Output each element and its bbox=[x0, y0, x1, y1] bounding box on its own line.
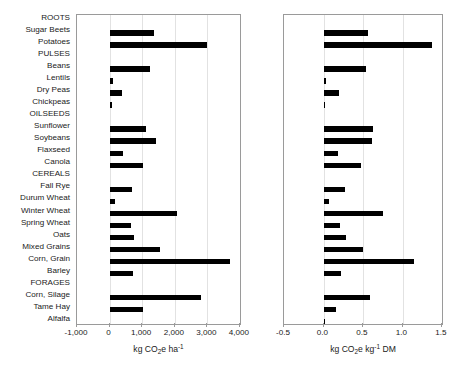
bar-row bbox=[77, 63, 240, 75]
bar-row bbox=[284, 184, 442, 196]
bar bbox=[110, 78, 113, 83]
bar-row bbox=[77, 15, 240, 27]
x-tick-label: 1,000 bbox=[131, 327, 151, 339]
x-tick-mark bbox=[402, 323, 403, 327]
bar-row bbox=[284, 123, 442, 135]
bar-row bbox=[284, 27, 442, 39]
bar bbox=[110, 151, 124, 156]
x-axis-ticks-right: -0.50.00.51.01.5 bbox=[283, 327, 443, 339]
x-tick-label: 3,000 bbox=[196, 327, 216, 339]
category-label: Spring Wheat bbox=[0, 217, 74, 229]
bar-row bbox=[77, 292, 240, 304]
category-label: Mixed Grains bbox=[0, 241, 74, 253]
bar bbox=[110, 259, 231, 264]
bar-row bbox=[77, 111, 240, 123]
bar-row bbox=[77, 220, 240, 232]
bar bbox=[110, 235, 134, 240]
bar-row bbox=[77, 268, 240, 280]
x-tick-label: 0.0 bbox=[317, 327, 328, 339]
bar bbox=[324, 319, 325, 324]
bar bbox=[324, 126, 374, 131]
bar-row bbox=[77, 196, 240, 208]
bar-row bbox=[284, 39, 442, 51]
x-tick-mark bbox=[441, 323, 442, 327]
plot-area-right bbox=[284, 15, 442, 324]
bar bbox=[110, 223, 131, 228]
bar-row bbox=[284, 292, 442, 304]
category-label: Winter Wheat bbox=[0, 205, 74, 217]
figure-container: ROOTSSugar BeetsPotatoesPULSESBeansLenti… bbox=[0, 0, 452, 375]
chart-panel-left bbox=[76, 14, 241, 325]
bar-row bbox=[77, 280, 240, 292]
x-tick-mark bbox=[362, 323, 363, 327]
bar-row bbox=[284, 63, 442, 75]
category-label: Fall Rye bbox=[0, 180, 74, 192]
bar-row bbox=[77, 256, 240, 268]
bar bbox=[324, 30, 368, 35]
bar-row bbox=[284, 15, 442, 27]
bar-row bbox=[284, 99, 442, 111]
bar-row bbox=[284, 208, 442, 220]
category-label: Corn, Silage bbox=[0, 289, 74, 301]
bar-row bbox=[284, 256, 442, 268]
bar bbox=[110, 42, 208, 47]
bar-row bbox=[77, 172, 240, 184]
x-axis-ticks-left: -1,00001,0002,0003,0004,000 bbox=[76, 327, 241, 339]
x-axis-title-left: kg CO2e ha-1 bbox=[76, 344, 241, 354]
bar-row bbox=[284, 75, 442, 87]
x-tick-label: -1,000 bbox=[65, 327, 88, 339]
bar bbox=[110, 30, 154, 35]
bar-row bbox=[284, 244, 442, 256]
bar-row bbox=[77, 159, 240, 171]
bar bbox=[324, 235, 346, 240]
bar-row bbox=[77, 75, 240, 87]
bar-row bbox=[284, 268, 442, 280]
bar-row bbox=[284, 172, 442, 184]
bar-row bbox=[284, 196, 442, 208]
bar bbox=[324, 42, 432, 47]
category-label: Sugar Beets bbox=[0, 24, 74, 36]
bar-row bbox=[77, 39, 240, 51]
bar-row bbox=[77, 304, 240, 316]
bar bbox=[324, 307, 337, 312]
x-tick-label: -0.5 bbox=[276, 327, 290, 339]
category-label: Dry Peas bbox=[0, 84, 74, 96]
category-label: Potatoes bbox=[0, 36, 74, 48]
bar bbox=[110, 138, 157, 143]
bar bbox=[324, 271, 341, 276]
bar bbox=[324, 187, 345, 192]
bar bbox=[324, 151, 338, 156]
bar bbox=[324, 223, 341, 228]
bar bbox=[324, 211, 383, 216]
x-tick-mark bbox=[239, 323, 240, 327]
bar-row bbox=[77, 27, 240, 39]
category-label: Canola bbox=[0, 156, 74, 168]
category-label: Durum Wheat bbox=[0, 192, 74, 204]
bar bbox=[324, 138, 372, 143]
bar-row bbox=[284, 135, 442, 147]
bar bbox=[324, 247, 364, 252]
category-label: Lentils bbox=[0, 72, 74, 84]
bar-row bbox=[77, 232, 240, 244]
x-tick-label: 0.5 bbox=[356, 327, 367, 339]
category-label: Tame Hay bbox=[0, 301, 74, 313]
bar-row bbox=[284, 87, 442, 99]
category-label: OILSEEDS bbox=[0, 108, 74, 120]
bar-row bbox=[77, 123, 240, 135]
bar bbox=[110, 271, 134, 276]
x-tick-label: 2,000 bbox=[164, 327, 184, 339]
bar bbox=[324, 259, 415, 264]
bar bbox=[324, 199, 330, 204]
chart-panel-right bbox=[283, 14, 443, 325]
category-label: ROOTS bbox=[0, 12, 74, 24]
bar-row bbox=[284, 51, 442, 63]
plot-area-left bbox=[77, 15, 240, 324]
category-label: PULSES bbox=[0, 48, 74, 60]
category-label: Sunflower bbox=[0, 120, 74, 132]
bar bbox=[110, 187, 133, 192]
x-tick-mark bbox=[206, 323, 207, 327]
x-tick-mark bbox=[323, 323, 324, 327]
bar bbox=[324, 163, 362, 168]
x-axis-title-right: kg CO2e kg-1 DM bbox=[283, 344, 443, 354]
bar-row bbox=[284, 280, 442, 292]
